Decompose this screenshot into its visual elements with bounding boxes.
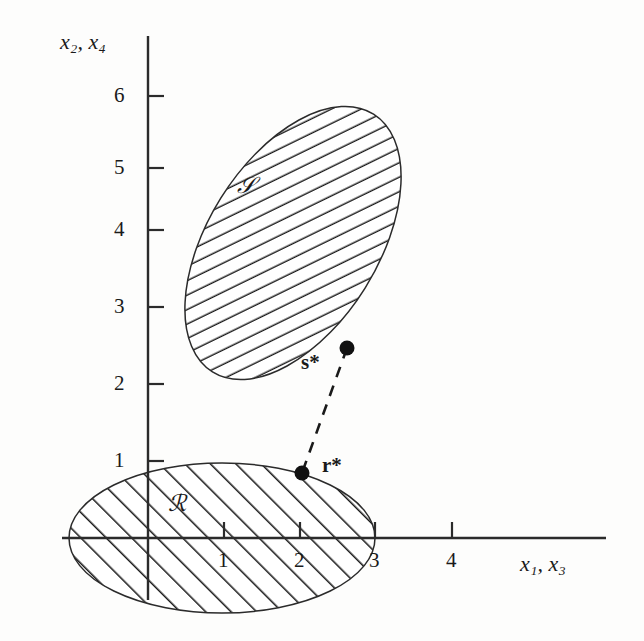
x-axis-title: x₁, x₃ xyxy=(520,553,566,575)
figure-graphics xyxy=(0,0,644,641)
y-tick-marks xyxy=(148,96,164,461)
y-tick-label-2: 2 xyxy=(114,373,125,394)
s-star-marker xyxy=(340,341,355,356)
y-tick-label-5: 5 xyxy=(114,157,125,178)
point-label-s-star: s* xyxy=(301,352,320,373)
y-tick-label-1: 1 xyxy=(114,450,125,471)
x-tick-label-3: 3 xyxy=(369,550,380,571)
x-tick-label-1: 1 xyxy=(218,550,229,571)
r-star-marker xyxy=(295,466,310,481)
y-tick-label-4: 4 xyxy=(114,219,125,240)
y-axis-title: x₂, x₄ xyxy=(60,31,106,53)
x-tick-label-4: 4 xyxy=(446,550,457,571)
y-tick-label-6: 6 xyxy=(114,85,125,106)
region-label-R: ℛ xyxy=(168,492,186,515)
region-label-S: 𝒮 xyxy=(237,174,255,197)
region-S xyxy=(140,69,445,417)
x-tick-label-2: 2 xyxy=(294,550,305,571)
point-label-r-star: r* xyxy=(322,455,342,476)
y-tick-label-3: 3 xyxy=(114,296,125,317)
figure-canvas: x₂, x₄ x₁, x₃ 1 2 3 4 5 6 1 2 3 4 ℛ 𝒮 s*… xyxy=(0,0,644,641)
